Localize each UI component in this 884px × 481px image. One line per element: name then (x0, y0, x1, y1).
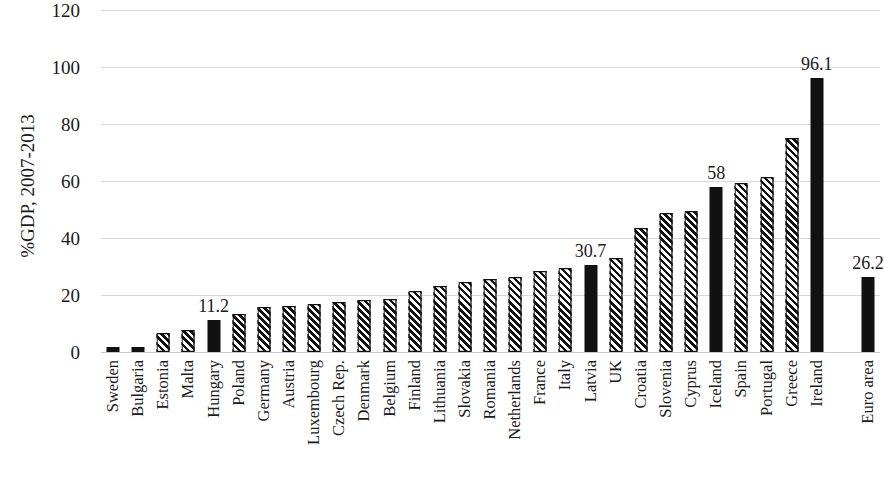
x-tick-label: Poland (227, 352, 251, 478)
bar-value-label: 26.2 (852, 254, 884, 272)
x-tick-label: Greece (780, 352, 804, 478)
x-axis-tick-labels: SwedenBulgariaEstoniaMaltaHungaryPolandG… (101, 352, 880, 481)
bar-slot[interactable]: 58 (704, 10, 728, 352)
bar[interactable] (660, 213, 673, 352)
bar-slot[interactable] (604, 10, 628, 352)
bar[interactable] (559, 268, 572, 352)
x-tick-label-text: Croatia (633, 360, 650, 409)
bar-slot[interactable]: 96.1 (805, 10, 829, 352)
bar-slot[interactable] (126, 10, 150, 352)
bar[interactable] (484, 279, 497, 352)
bar-slot[interactable] (378, 10, 402, 352)
bar[interactable] (584, 265, 597, 352)
bar-value-label: 58 (707, 164, 725, 182)
x-tick-label-text: Latvia (582, 360, 599, 402)
x-tick-label-text: Euro area (860, 360, 877, 424)
y-tick-label: 20 (22, 286, 80, 305)
bar-slot[interactable] (729, 10, 753, 352)
bar[interactable] (182, 330, 195, 352)
bar-value-label: 96.1 (801, 55, 833, 73)
x-tick-label: Slovakia (453, 352, 477, 478)
bar[interactable] (433, 286, 446, 352)
x-tick-label-text: Finland (406, 360, 423, 410)
x-tick-label: Germany (252, 352, 276, 478)
x-tick-label: UK (604, 352, 628, 478)
bar[interactable] (685, 211, 698, 352)
x-tick-label: Romania (478, 352, 502, 478)
x-tick-label: Netherlands (503, 352, 527, 478)
bar[interactable] (634, 228, 647, 352)
x-tick-label: Lithuania (428, 352, 452, 478)
x-tick-label: Belgium (378, 352, 402, 478)
bar-slot[interactable] (277, 10, 301, 352)
bar[interactable] (408, 291, 421, 352)
bar-slot[interactable]: 30.7 (579, 10, 603, 352)
bar[interactable] (333, 302, 346, 352)
bar-slot[interactable] (553, 10, 577, 352)
x-tick-label-text: Greece (783, 360, 800, 407)
bar[interactable] (509, 277, 522, 352)
x-tick-label: Malta (176, 352, 200, 478)
x-tick-label: Austria (277, 352, 301, 478)
x-tick-label-text: Cyprus (683, 360, 700, 408)
bar-slot[interactable] (101, 10, 125, 352)
bar[interactable] (760, 177, 773, 352)
x-tick-label-text: Estonia (155, 360, 172, 410)
bar-chart: %GDP, 2007-2013 11.230.75896.126.2 02040… (0, 0, 884, 481)
bar-slot[interactable] (679, 10, 703, 352)
bar[interactable] (383, 299, 396, 352)
bar-slot[interactable] (478, 10, 502, 352)
bar[interactable] (458, 282, 471, 352)
bar-slot[interactable] (528, 10, 552, 352)
bar[interactable] (862, 277, 875, 352)
bar-slot[interactable] (453, 10, 477, 352)
bar-slot[interactable] (428, 10, 452, 352)
x-tick-label-text: Austria (281, 360, 298, 409)
bar-slot[interactable]: 26.2 (856, 10, 880, 352)
bar-slot[interactable] (252, 10, 276, 352)
bar-value-label: 11.2 (198, 297, 229, 315)
bar-slot[interactable] (151, 10, 175, 352)
bar-slot[interactable] (654, 10, 678, 352)
bar[interactable] (735, 183, 748, 352)
bar-series: 11.230.75896.126.2 (101, 10, 880, 352)
bar[interactable] (257, 307, 270, 352)
x-tick-label: Estonia (151, 352, 175, 478)
x-tick-label-text: Czech Rep. (331, 360, 348, 436)
bar[interactable] (710, 187, 723, 352)
bar[interactable] (157, 333, 170, 352)
y-tick-label: 120 (22, 1, 80, 20)
bar-slot[interactable] (327, 10, 351, 352)
bar[interactable] (810, 78, 823, 352)
bar[interactable] (282, 306, 295, 352)
y-tick-label: 80 (22, 115, 80, 134)
x-tick-label: France (528, 352, 552, 478)
bar-slot[interactable] (302, 10, 326, 352)
bar[interactable] (308, 304, 321, 352)
bar[interactable] (358, 300, 371, 352)
x-tick-label-text: Italy (557, 360, 574, 390)
bar[interactable] (232, 314, 245, 352)
x-tick-label: Hungary (202, 352, 226, 478)
y-tick-label: 0 (22, 343, 80, 362)
bar-slot[interactable] (755, 10, 779, 352)
bar-slot[interactable] (629, 10, 653, 352)
bar-slot[interactable] (403, 10, 427, 352)
x-tick-label: Slovenia (654, 352, 678, 478)
bar-slot[interactable] (227, 10, 251, 352)
bar[interactable] (534, 271, 547, 352)
bar[interactable] (609, 258, 622, 352)
bar-slot[interactable] (780, 10, 804, 352)
x-tick-label: Cyprus (679, 352, 703, 478)
x-tick-label-text: Romania (482, 360, 499, 420)
bar[interactable] (785, 138, 798, 352)
bar[interactable] (207, 320, 220, 352)
bar-slot[interactable] (352, 10, 376, 352)
x-tick-label-text: Iceland (708, 360, 725, 409)
bar-slot[interactable]: 11.2 (202, 10, 226, 352)
x-tick-label: Czech Rep. (327, 352, 351, 478)
x-tick-label: Latvia (579, 352, 603, 478)
bar-slot[interactable] (176, 10, 200, 352)
bar-slot[interactable] (503, 10, 527, 352)
x-tick-label-text: Germany (256, 360, 273, 421)
